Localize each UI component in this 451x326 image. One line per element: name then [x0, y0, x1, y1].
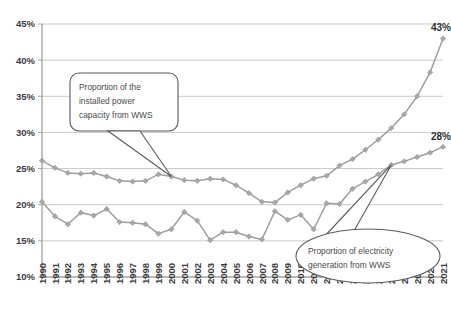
data-point-2012 [324, 201, 329, 206]
data-point-1993 [78, 171, 83, 176]
callout-generation-line-2: generation from WWS [308, 260, 391, 270]
data-point-2005 [233, 229, 238, 234]
y-axis-label-15%: 15% [16, 235, 36, 246]
y-axis-label-45%: 45% [16, 18, 36, 29]
x-axis-label-2000: 2000 [166, 263, 177, 284]
x-axis-label-1994: 1994 [88, 262, 99, 284]
series-generation: 28% [39, 131, 451, 243]
callout-generation[interactable]: Proportion of electricitygeneration from… [296, 165, 440, 283]
y-axis-label-20%: 20% [16, 199, 36, 210]
callout-capacity-pointer [108, 131, 171, 177]
chart-container: 10%15%20%25%30%35%40%45%1990199119921993… [0, 0, 451, 326]
data-point-2019 [414, 154, 419, 159]
series-end-label-capacity: 43% [431, 22, 451, 33]
x-axis-label-2021: 2021 [438, 262, 449, 284]
data-point-1994 [91, 170, 96, 175]
x-axis-label-1999: 1999 [153, 263, 164, 284]
x-axis-label-1992: 1992 [62, 263, 73, 284]
y-axis-label-40%: 40% [16, 55, 36, 66]
y-axis-label-25%: 25% [16, 163, 36, 174]
x-axis-label-2006: 2006 [244, 263, 255, 284]
x-axis-label-2007: 2007 [257, 263, 268, 284]
x-axis-label-2002: 2002 [192, 263, 203, 284]
x-axis-label-2008: 2008 [269, 263, 280, 284]
data-point-1996 [117, 178, 122, 183]
data-point-2011 [311, 176, 316, 181]
data-point-2020 [427, 70, 432, 75]
data-point-2020 [427, 150, 432, 155]
x-axis-label-1995: 1995 [101, 262, 112, 284]
callout-generation-pointer [323, 165, 391, 238]
callout-capacity[interactable]: Proportion of theinstalled powercapacity… [70, 73, 178, 177]
x-axis-label-2001: 2001 [179, 262, 190, 284]
data-point-1992 [65, 170, 70, 175]
callout-capacity-line-1: Proportion of the [79, 82, 141, 92]
data-point-2006 [246, 234, 251, 239]
data-point-1997 [130, 220, 135, 225]
callout-generation-ellipse[interactable] [296, 229, 440, 283]
data-point-2021 [440, 36, 445, 41]
data-point-2018 [402, 159, 407, 164]
x-axis-label-1996: 1996 [114, 263, 125, 284]
wws-share-line-chart: 10%15%20%25%30%35%40%45%1990199119921993… [0, 0, 451, 326]
data-point-2002 [195, 178, 200, 183]
x-axis-label-1998: 1998 [140, 263, 151, 284]
data-point-2007 [259, 237, 264, 242]
data-point-1994 [91, 213, 96, 218]
series-line [42, 147, 443, 240]
data-point-2004 [220, 177, 225, 182]
x-axis-label-2004: 2004 [218, 262, 229, 284]
data-point-1998 [143, 178, 148, 183]
y-axis-label-30%: 30% [16, 127, 36, 138]
y-axis-label-35%: 35% [16, 91, 36, 102]
data-point-2021 [440, 144, 445, 149]
data-point-2001 [182, 177, 187, 182]
x-axis-label-1991: 1991 [50, 262, 61, 284]
x-axis-label-2003: 2003 [205, 263, 216, 284]
x-axis-label-1993: 1993 [75, 263, 86, 284]
callout-capacity-line-3: capacity from WWS [79, 110, 153, 120]
data-point-1999 [156, 172, 161, 177]
data-point-1997 [130, 179, 135, 184]
y-axis-label-10%: 10% [16, 271, 36, 282]
x-axis-label-2005: 2005 [231, 262, 242, 284]
x-axis-label-2009: 2009 [282, 263, 293, 284]
callout-generation-line-1: Proportion of electricity [308, 246, 394, 256]
x-axis-label-1997: 1997 [127, 263, 138, 284]
data-point-2003 [207, 176, 212, 181]
data-point-1995 [104, 174, 109, 179]
x-axis-label-1990: 1990 [37, 263, 48, 284]
series-end-label-generation: 28% [431, 131, 451, 142]
callout-capacity-line-2: installed power [79, 96, 135, 106]
